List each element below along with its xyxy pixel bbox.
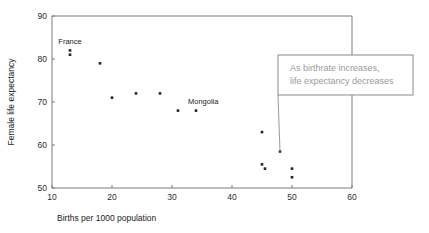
- point-labels: FranceMongolia: [58, 37, 219, 106]
- data-point: [261, 131, 264, 134]
- data-point: [291, 167, 294, 170]
- x-axis-title: Births per 1000 population: [57, 213, 157, 223]
- data-point: [261, 163, 264, 166]
- data-point: [111, 96, 114, 99]
- callout-box: [278, 55, 413, 95]
- y-tick-label: 70: [38, 97, 48, 107]
- trend-callout: As birthrate increases, life expectancy …: [278, 55, 413, 95]
- data-point: [159, 92, 162, 95]
- y-tick-label: 60: [38, 140, 48, 150]
- x-tick-label: 30: [167, 192, 177, 202]
- x-tick-label: 10: [47, 192, 57, 202]
- chart-canvas: 102030405060 5060708090 Births per 1000 …: [0, 0, 429, 233]
- callout-line-2: life expectancy decreases: [290, 76, 394, 86]
- data-point: [99, 62, 102, 65]
- callout-line-1: As birthrate increases,: [290, 63, 380, 73]
- y-tick-label: 50: [38, 183, 48, 193]
- data-point: [69, 49, 72, 52]
- data-point: [69, 53, 72, 56]
- x-tick-label: 20: [107, 192, 117, 202]
- y-axis-title: Female life expectancy: [6, 58, 16, 146]
- y-tick-label: 90: [38, 11, 48, 21]
- scatter-chart-figure: 102030405060 5060708090 Births per 1000 …: [0, 0, 429, 233]
- x-tick-label: 50: [287, 192, 297, 202]
- data-point: [195, 109, 198, 112]
- y-tick-label: 80: [38, 54, 48, 64]
- point-label: Mongolia: [188, 97, 219, 106]
- x-tick-label: 60: [347, 192, 357, 202]
- callout-leader-line: [278, 95, 280, 151]
- data-point: [264, 167, 267, 170]
- data-point: [177, 109, 180, 112]
- point-label: France: [58, 37, 81, 46]
- data-point: [135, 92, 138, 95]
- data-point: [291, 176, 294, 179]
- x-tick-label: 40: [227, 192, 237, 202]
- data-points: [69, 49, 294, 178]
